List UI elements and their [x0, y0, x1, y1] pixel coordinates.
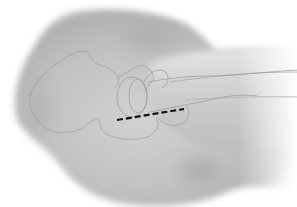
hip-illustration [0, 0, 297, 207]
right-fade [0, 0, 297, 207]
illustration-canvas [0, 0, 297, 207]
